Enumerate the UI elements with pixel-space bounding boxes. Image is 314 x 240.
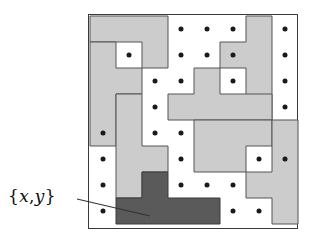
empty-cell-dot: [179, 157, 184, 162]
empty-cell-dot: [205, 27, 210, 32]
polyomino-packing-figure: {x,y}: [0, 0, 314, 240]
empty-cell-dot: [231, 27, 236, 32]
empty-cell-dot: [179, 79, 184, 84]
label-close-brace: }: [45, 186, 56, 206]
empty-cell-dot: [205, 183, 210, 188]
empty-cell-dot: [257, 157, 262, 162]
label-x: x: [19, 186, 29, 206]
empty-cell-dot: [101, 183, 106, 188]
empty-cell-dot: [179, 53, 184, 58]
empty-cell-dot: [179, 27, 184, 32]
empty-cell-dot: [153, 131, 158, 136]
empty-cell-dot: [283, 53, 288, 58]
empty-cell-dot: [101, 131, 106, 136]
empty-cell-dot: [127, 53, 132, 58]
empty-cell-dot: [101, 209, 106, 214]
label-open-brace: {: [8, 186, 19, 206]
empty-cell-dot: [205, 53, 210, 58]
empty-cell-dot: [231, 53, 236, 58]
dots-layer: [89, 15, 297, 228]
empty-cell-dot: [283, 79, 288, 84]
board-frame: [88, 14, 298, 229]
empty-cell-dot: [153, 105, 158, 110]
label-y: y: [35, 186, 45, 206]
empty-cell-dot: [231, 79, 236, 84]
empty-cell-dot: [179, 131, 184, 136]
coordinate-label: {x,y}: [8, 186, 56, 206]
empty-cell-dot: [257, 209, 262, 214]
empty-cell-dot: [179, 183, 184, 188]
empty-cell-dot: [153, 79, 158, 84]
empty-cell-dot: [283, 157, 288, 162]
empty-cell-dot: [231, 183, 236, 188]
empty-cell-dot: [283, 27, 288, 32]
empty-cell-dot: [231, 209, 236, 214]
empty-cell-dot: [283, 105, 288, 110]
empty-cell-dot: [101, 157, 106, 162]
